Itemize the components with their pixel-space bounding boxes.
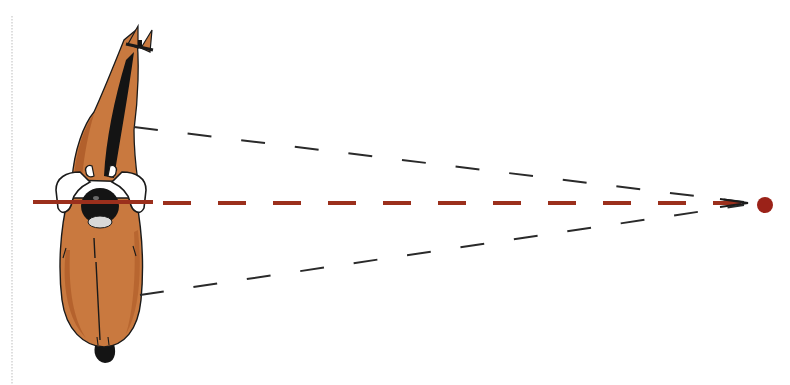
upper-sight-line [134, 127, 744, 202]
rider-helmet-highlight [93, 196, 99, 200]
horse-bridle-buckle [138, 40, 142, 46]
rider-left-hand [85, 165, 94, 176]
lower-sight-line [140, 205, 744, 295]
focal-point-target [757, 197, 773, 213]
rider-helmet-brim [88, 216, 112, 228]
horse-sightline-diagram [0, 0, 790, 385]
horse-with-rider [56, 26, 153, 363]
rider-right-hand [108, 165, 117, 176]
